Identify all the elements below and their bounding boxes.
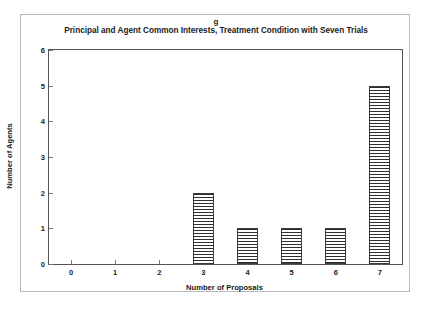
x-tick-label: 7 (365, 269, 395, 277)
x-tick-label: 4 (233, 269, 263, 277)
chart-title: Principal and Agent Common Interests, Tr… (21, 26, 411, 36)
y-tick-label: 1 (23, 225, 49, 232)
y-tick-label: 6 (23, 47, 49, 54)
x-axis-title: Number of Proposals (48, 283, 401, 292)
y-tick-mark (49, 228, 53, 229)
y-tick-mark (49, 86, 53, 87)
y-tick-mark (49, 193, 53, 194)
y-tick-mark (49, 157, 53, 158)
x-tick-label: 0 (56, 269, 86, 277)
bar (193, 193, 214, 264)
x-tick-mark (71, 260, 72, 264)
y-tick-label: 2 (23, 189, 49, 196)
x-tick-mark (159, 260, 160, 264)
bar (325, 228, 346, 264)
x-tick-label: 6 (321, 269, 351, 277)
y-tick-mark (49, 50, 53, 51)
bar (281, 228, 302, 264)
bar (237, 228, 258, 264)
x-tick-label: 3 (188, 269, 218, 277)
y-tick-label: 5 (23, 82, 49, 89)
y-tick-label: 4 (23, 118, 49, 125)
x-tick-label: 1 (100, 269, 130, 277)
panel-label: g (21, 17, 411, 26)
bar (369, 86, 390, 264)
x-tick-mark (115, 260, 116, 264)
figure-panel: g Principal and Agent Common Interests, … (20, 14, 410, 292)
y-tick-mark (49, 264, 53, 265)
y-axis-title: Number of Agents (5, 123, 14, 189)
x-tick-label: 2 (144, 269, 174, 277)
y-tick-mark (49, 121, 53, 122)
plot-area: 0123456 01234567 (48, 49, 403, 265)
x-tick-label: 5 (277, 269, 307, 277)
y-tick-label: 0 (23, 261, 49, 268)
y-tick-label: 3 (23, 154, 49, 161)
